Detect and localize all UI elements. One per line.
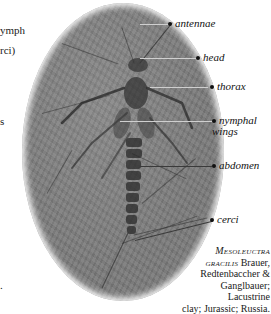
label-nymphal-wings-line2: wings xyxy=(212,126,238,137)
leader-line-nymphal-wings xyxy=(120,121,212,122)
text-fragment: rci) xyxy=(0,44,15,57)
text-fragment: s xyxy=(0,115,4,128)
caption-species: gracilis xyxy=(205,257,238,268)
leader-line-antennae xyxy=(140,24,170,25)
caption-authors-3: Ganglbauer; Lacustrine xyxy=(176,280,270,303)
leader-line-abdomen xyxy=(140,166,212,167)
caption-authors-1: Brauer, xyxy=(238,257,270,268)
bullet-dot-icon xyxy=(210,218,214,222)
bullet-dot-icon xyxy=(196,56,200,60)
bullet-dot-icon xyxy=(212,164,216,168)
leader-line-thorax xyxy=(150,87,208,88)
caption-line-4: clay; Jurassic; Russia. xyxy=(176,303,270,314)
label-antennae: antennae xyxy=(175,18,215,29)
specimen-caption: Mesoleuctra gracilis Brauer, Redtenbacch… xyxy=(176,245,270,314)
bullet-dot-icon xyxy=(168,22,172,26)
caption-authors-2: Redtenbaccher & xyxy=(176,268,270,280)
label-head: head xyxy=(203,52,224,63)
label-abdomen: abdomen xyxy=(219,160,259,171)
bullet-dot-icon xyxy=(212,119,216,123)
text-fragment: . xyxy=(0,279,3,292)
label-cerci: cerci xyxy=(217,214,239,225)
bullet-dot-icon xyxy=(210,85,214,89)
caption-genus: Mesoleuctra xyxy=(215,245,270,256)
label-thorax: thorax xyxy=(217,81,246,92)
leader-line-head xyxy=(140,58,196,59)
